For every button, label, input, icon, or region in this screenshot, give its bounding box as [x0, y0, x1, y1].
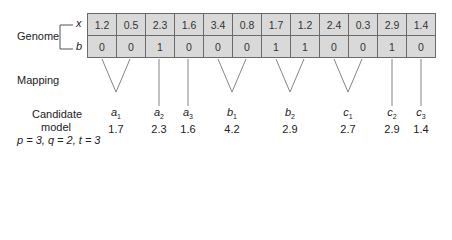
gene-c1: c1 2.7	[333, 106, 363, 136]
gene-value: 1.6	[173, 123, 203, 136]
gene-sub: 2	[160, 113, 164, 120]
candidate-label-line1: Candidate	[32, 108, 82, 120]
candidate-label-line2: model	[41, 121, 71, 133]
gene-sub: 1	[117, 113, 121, 120]
gene-sub: 1	[349, 113, 353, 120]
gene-value: 2.9	[275, 123, 305, 136]
gene-value: 2.9	[377, 123, 407, 136]
gene-c3: c3 1.4	[406, 106, 436, 136]
gene-sub: 3	[422, 113, 426, 120]
gene-value: 1.7	[101, 123, 131, 136]
candidate-params: p = 3, q = 2, t = 3	[17, 134, 100, 146]
gene-sub: 3	[189, 113, 193, 120]
gene-value: 2.7	[333, 123, 363, 136]
gene-b2: b2 2.9	[275, 106, 305, 136]
gene-sub: 2	[291, 113, 295, 120]
mapping-label: Mapping	[17, 74, 59, 86]
gene-value: 2.3	[144, 123, 174, 136]
gene-c2: c2 2.9	[377, 106, 407, 136]
gene-a2: a2 2.3	[144, 106, 174, 136]
gene-sub: 1	[233, 113, 237, 120]
gene-b1: b1 4.2	[217, 106, 247, 136]
gene-sub: 2	[393, 113, 397, 120]
gene-a1: a1 1.7	[101, 106, 131, 136]
gene-a3: a3 1.6	[173, 106, 203, 136]
gene-value: 1.4	[406, 123, 436, 136]
gene-value: 4.2	[217, 123, 247, 136]
